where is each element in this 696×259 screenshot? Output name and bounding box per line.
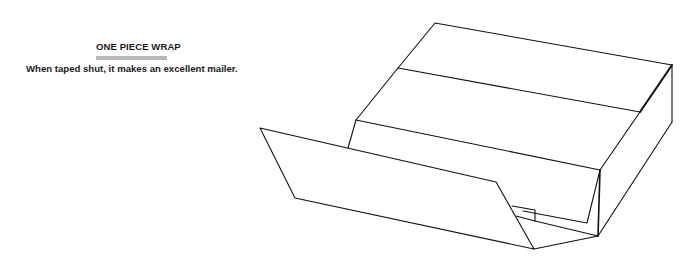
lid-right-edge — [600, 112, 640, 170]
lid-right-edge-thick — [640, 65, 672, 112]
lid-seam — [398, 68, 640, 112]
lid-front-edge — [356, 120, 600, 170]
right-side-bottom-edge — [598, 122, 672, 236]
right-front-vertical — [598, 170, 600, 236]
inner-slot — [512, 206, 598, 236]
box-illustration — [0, 0, 696, 259]
front-flap — [260, 128, 534, 249]
bottom-fold — [534, 236, 598, 249]
lid-front-left-edge — [356, 68, 398, 120]
inner-slot-lower — [516, 216, 535, 221]
front-panel-left-edge — [348, 120, 356, 148]
lid-back-edge — [398, 23, 672, 112]
